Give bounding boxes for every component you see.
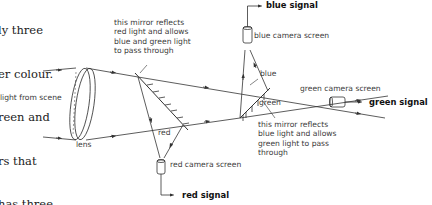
green-camera-label: green camera screen	[300, 84, 381, 93]
optics-diagram	[0, 0, 432, 205]
red-ray-1	[138, 77, 160, 158]
red-label: red	[158, 128, 170, 137]
blue-label: blue	[260, 69, 276, 78]
green-label: green	[259, 98, 281, 107]
mirror1-note: this mirror reflects red light and allow…	[114, 18, 191, 56]
blue-signal-label: blue signal	[266, 0, 318, 10]
red-reflecting-mirror	[135, 73, 189, 130]
blue-ray-1	[240, 50, 245, 118]
red-signal-label: red signal	[182, 190, 229, 200]
lens-label: lens	[76, 140, 92, 149]
red-camera-label: red camera screen	[170, 160, 241, 169]
green-signal-label: green signal	[369, 97, 428, 107]
incoming-ray-top	[43, 68, 76, 71]
blue-camera-label: blue camera screen	[254, 31, 329, 40]
green-camera-icon	[330, 97, 361, 107]
mirror2-note: this mirror reflects blue light and allo…	[258, 120, 336, 158]
light-from-scene-label: light from scene	[0, 93, 62, 102]
lens-icon	[66, 67, 99, 141]
